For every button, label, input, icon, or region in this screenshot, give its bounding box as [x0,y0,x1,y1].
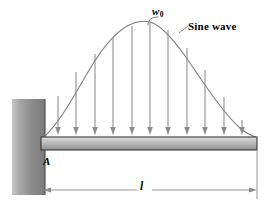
peak-load-label: w0 [152,6,163,17]
support-wall [12,99,45,195]
length-dimension-label: l [140,181,143,193]
length-dimension-line [43,187,257,192]
load-arrow [239,120,245,135]
sine-wave-leader-line [179,26,188,33]
peak-load-subscript: 0 [160,10,164,19]
load-arrow [202,70,208,135]
load-arrow [221,97,227,135]
load-arrow [110,38,116,135]
load-arrow [147,23,153,135]
load-arrow [92,54,98,135]
peak-load-symbol: w [152,5,159,17]
load-arrow [165,30,171,135]
sine-wave-label: Sine wave [188,21,237,32]
load-arrow [129,26,135,135]
load-arrow [73,72,79,135]
beam [41,137,257,150]
beam-load-diagram: w0 Sine wave A l [0,0,273,209]
support-point-label: A [43,156,50,167]
load-arrow [55,96,61,135]
